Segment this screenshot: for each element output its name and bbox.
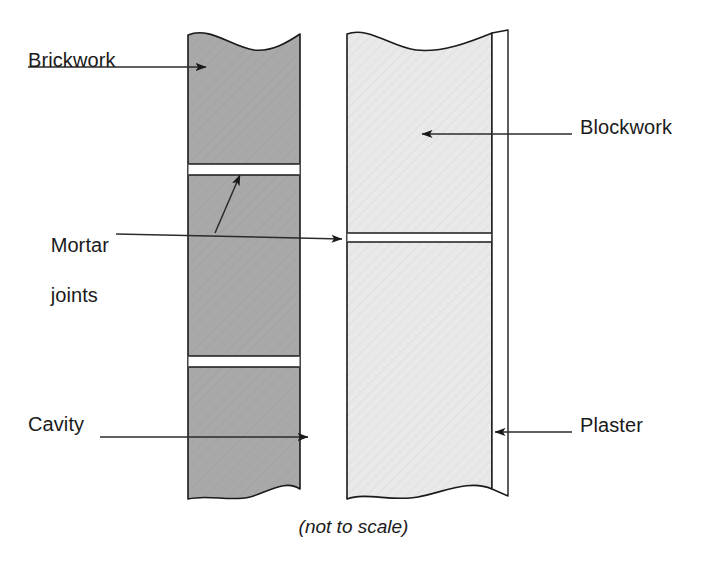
label-cavity: Cavity — [28, 412, 84, 437]
cavity-wall-diagram: Brickwork Mortar joints Cavity Blockwork… — [0, 0, 707, 571]
blockwork-leaf — [347, 32, 492, 499]
label-plaster: Plaster — [580, 413, 643, 438]
brickwork-leaf — [188, 33, 300, 499]
label-brickwork: Brickwork — [28, 48, 116, 73]
plaster-body — [492, 30, 508, 496]
blockwork-body — [347, 32, 492, 499]
brickwork-body — [188, 33, 300, 499]
label-blockwork: Blockwork — [580, 115, 672, 140]
blockwork-mortar-joint — [348, 233, 492, 242]
label-mortar-joints-line2: joints — [51, 284, 98, 306]
label-mortar-joints: Mortar joints — [28, 208, 109, 333]
plaster-layer — [492, 30, 508, 496]
caption-not-to-scale: (not to scale) — [0, 516, 707, 538]
label-mortar-joints-line1: Mortar — [51, 234, 109, 256]
